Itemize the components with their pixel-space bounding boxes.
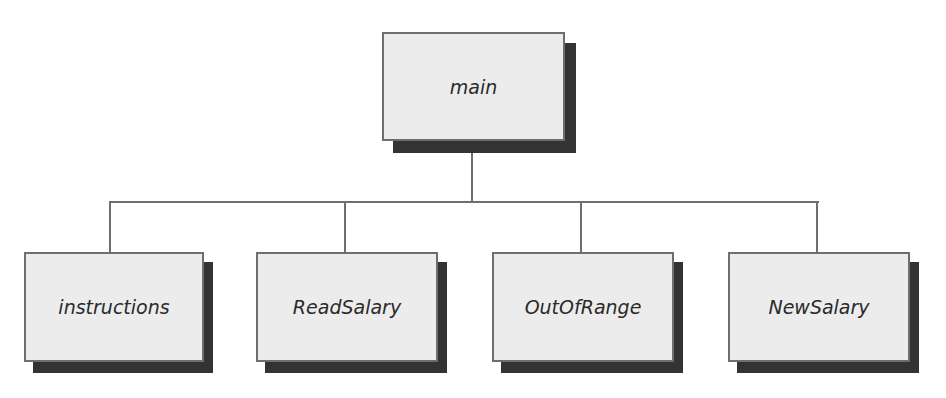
- instructions-node: instructions: [24, 252, 204, 362]
- readsalary-node: ReadSalary: [256, 252, 438, 362]
- connector-to-newsalary: [816, 201, 818, 253]
- structure-chart-diagram: main instructions ReadSalary OutOfRange …: [0, 0, 946, 398]
- connector-to-readsalary: [344, 201, 346, 253]
- main-node: main: [382, 32, 565, 141]
- connector-to-outofrange: [580, 201, 582, 253]
- outofrange-node: OutOfRange: [492, 252, 674, 362]
- connector-to-instructions: [109, 201, 111, 253]
- connector-horizontal-bus: [109, 201, 819, 203]
- newsalary-node: NewSalary: [728, 252, 910, 362]
